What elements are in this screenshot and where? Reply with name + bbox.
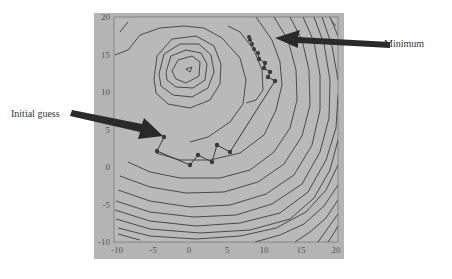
y-tick: 0 xyxy=(106,162,111,172)
x-tick: 5 xyxy=(225,245,230,255)
y-tick: -5 xyxy=(103,200,111,210)
initial-guess-label: Initial guess xyxy=(11,108,60,119)
x-tick: 10 xyxy=(260,245,270,255)
x-tick: 15 xyxy=(297,245,307,255)
contour-figure: 20 15 10 5 0 -5 -10 -10 -5 0 5 10 15 20 … xyxy=(0,0,452,279)
y-tick: 20 xyxy=(101,12,111,22)
x-tick: -10 xyxy=(111,245,123,255)
y-tick: 5 xyxy=(106,125,111,135)
y-tick: -10 xyxy=(98,237,110,247)
minimum-label: Minimum xyxy=(384,38,424,49)
x-tick: 0 xyxy=(187,245,192,255)
x-tick: 20 xyxy=(332,245,342,255)
y-tick: 10 xyxy=(101,87,111,97)
x-tick: -5 xyxy=(149,245,157,255)
y-tick: 15 xyxy=(101,50,111,60)
